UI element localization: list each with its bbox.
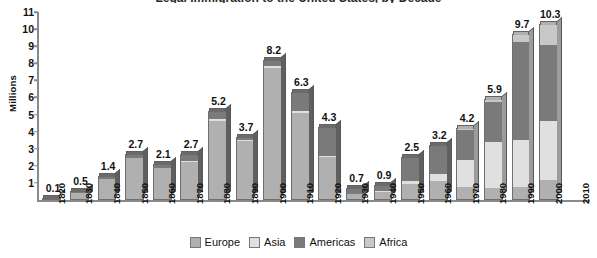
x-axis-tick-label: 1910: [304, 183, 315, 204]
bar-segment-americas[interactable]: [292, 93, 309, 111]
bar-segment-americas[interactable]: [209, 112, 226, 119]
bar-value-label: 6.3: [294, 76, 309, 88]
plot-area: 1110987654321 0.10.51.42.72.12.75.23.78.…: [38, 12, 590, 200]
bar-value-label: 4.2: [460, 112, 475, 124]
bar-value-label: 2.1: [156, 148, 171, 160]
chart-title: Legal Immigration to the United States, …: [0, 0, 597, 3]
y-axis-tick-mark: [34, 131, 38, 133]
legend-label: Asia: [264, 236, 285, 248]
bar-side-face: [529, 27, 534, 195]
bar-segment-americas[interactable]: [513, 42, 530, 140]
legend-item-americas[interactable]: Americas: [294, 236, 355, 248]
y-axis-tick-mark: [34, 182, 38, 184]
x-axis-tick-label: 1980: [497, 183, 508, 204]
x-axis-tick-label: 1840: [111, 183, 122, 204]
x-axis-tick-label: 1850: [139, 183, 150, 204]
bar-value-label: 8.2: [266, 44, 281, 56]
bar-top-face: [126, 151, 143, 155]
x-axis-tick-label: 1870: [194, 183, 205, 204]
x-axis-tick-label: 1820: [56, 183, 67, 204]
bar-side-face: [557, 17, 562, 195]
legend-swatch-icon: [190, 237, 201, 248]
x-axis-tick-label: 1950: [415, 183, 426, 204]
bar-top-face: [540, 21, 557, 25]
bar-segment-asia[interactable]: [485, 142, 502, 188]
bar-value-label: 2.7: [184, 138, 199, 150]
bar-segment-africa[interactable]: [513, 35, 530, 42]
bar-top-face: [402, 154, 419, 158]
bar-top-face: [457, 125, 474, 129]
legend-item-europe[interactable]: Europe: [190, 236, 240, 248]
legend-swatch-icon: [364, 237, 375, 248]
bar-top-face: [292, 89, 309, 93]
x-axis-tick-label: 1890: [249, 183, 260, 204]
y-axis-tick-mark: [34, 80, 38, 82]
bar-top-face: [264, 57, 281, 61]
bar-segment-americas[interactable]: [430, 146, 447, 173]
x-axis-tick-label: 1860: [166, 183, 177, 204]
x-axis-tick-label: 2010: [580, 183, 591, 204]
bar-value-label: 10.3: [540, 8, 560, 20]
bar-group[interactable]: 9.7: [512, 34, 531, 200]
bar-segment-americas[interactable]: [540, 45, 557, 121]
legend-item-africa[interactable]: Africa: [364, 236, 407, 248]
bar-side-face: [502, 92, 507, 195]
legend-label: Americas: [309, 236, 355, 248]
x-axis-tick-label: 1940: [387, 183, 398, 204]
x-axis-tick-label: 1880: [221, 183, 232, 204]
y-axis-title: Millions: [7, 64, 18, 124]
y-axis-tick-mark: [34, 114, 38, 116]
legend-label: Africa: [379, 236, 407, 248]
bar-value-label: 2.7: [128, 138, 143, 150]
bar-value-label: 3.2: [432, 129, 447, 141]
bar-top-face: [485, 96, 502, 100]
bar[interactable]: 10.3: [539, 24, 558, 200]
bar-top-face: [430, 142, 447, 146]
x-axis-tick-label: 1930: [359, 183, 370, 204]
bar-top-face: [99, 173, 116, 177]
x-axis-tick-label: 2000: [553, 183, 564, 204]
y-axis-tick-mark: [34, 28, 38, 30]
bar-segment-africa[interactable]: [540, 25, 557, 45]
bar-value-label: 5.9: [487, 83, 502, 95]
bar[interactable]: 8.2: [263, 60, 282, 200]
bar-segment-americas[interactable]: [485, 102, 502, 142]
bar-segment-americas[interactable]: [457, 130, 474, 160]
legend-label: Europe: [205, 236, 240, 248]
bar-top-face: [513, 31, 530, 35]
bar-segment-americas[interactable]: [402, 158, 419, 181]
y-axis-tick-mark: [34, 148, 38, 150]
bar-side-face: [309, 85, 314, 195]
legend-item-asia[interactable]: Asia: [249, 236, 285, 248]
x-axis-tick-label: 1900: [277, 183, 288, 204]
bar-value-label: 5.2: [211, 95, 226, 107]
bar-top-face: [209, 108, 226, 112]
y-axis-tick-mark: [34, 97, 38, 99]
bar-segment-asia[interactable]: [540, 121, 557, 180]
bar-segment-asia[interactable]: [430, 174, 447, 181]
bar-segment-asia[interactable]: [513, 140, 530, 187]
bar-group[interactable]: 8.2: [263, 60, 282, 200]
bar-segment-americas[interactable]: [319, 128, 336, 156]
y-axis-tick-mark: [34, 63, 38, 65]
chart-legend: EuropeAsiaAmericasAfrica: [0, 236, 597, 248]
bar-value-label: 3.7: [239, 121, 254, 133]
y-axis-tick-mark: [34, 165, 38, 167]
x-axis-tick-label: 1990: [525, 183, 536, 204]
stacked-bar-chart: Legal Immigration to the United States, …: [0, 0, 597, 258]
bar-side-face: [281, 53, 286, 195]
legend-swatch-icon: [249, 237, 260, 248]
bar[interactable]: 9.7: [512, 34, 531, 200]
bar-top-face: [319, 124, 336, 128]
legend-swatch-icon: [294, 237, 305, 248]
y-axis-tick-label: 10: [22, 23, 34, 35]
bar-segment-europe[interactable]: [264, 68, 281, 199]
y-axis-tick-label: 11: [23, 6, 34, 18]
y-axis-tick-mark: [34, 11, 38, 13]
bar-top-face: [154, 161, 171, 165]
bar-value-label: 2.5: [404, 141, 419, 153]
bar-value-label: 9.7: [515, 18, 530, 30]
bar-group[interactable]: 10.3: [539, 24, 558, 200]
bar-value-label: 1.4: [101, 160, 116, 172]
bar-top-face: [237, 134, 254, 138]
